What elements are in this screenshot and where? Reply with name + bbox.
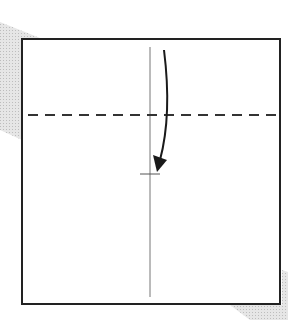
origami-diagram [0,0,288,320]
paper-square [22,39,280,304]
